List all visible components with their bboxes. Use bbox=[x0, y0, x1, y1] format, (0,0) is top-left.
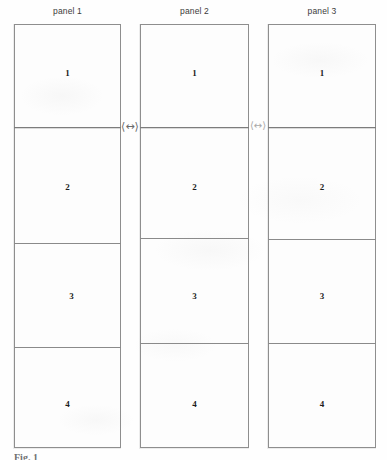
panel-1-cell-1-label: 1 bbox=[14, 68, 121, 78]
panel-box-1 bbox=[14, 24, 121, 448]
panel-box-2 bbox=[140, 24, 249, 448]
panel-1-cell-2-label: 2 bbox=[14, 182, 121, 192]
panel-1-divider-3 bbox=[14, 347, 121, 348]
panel-3-divider-3 bbox=[268, 343, 376, 344]
panel-2-divider-1 bbox=[140, 127, 249, 128]
panel-title-3: panel 3 bbox=[268, 6, 376, 16]
panel-3-cell-4-label: 4 bbox=[268, 399, 376, 409]
panel-2-divider-2 bbox=[140, 238, 249, 239]
figure-caption: Fig. 1 bbox=[14, 452, 38, 460]
panel-title-1: panel 1 bbox=[14, 6, 121, 16]
double-headed-arrow-icon-2: ⟨↔⟩ bbox=[247, 121, 269, 131]
panel-3-divider-1 bbox=[268, 127, 376, 128]
panel-1-cell-3-label: 3 bbox=[18, 291, 125, 301]
panel-3-cell-2-label: 2 bbox=[268, 182, 376, 192]
panel-2-cell-1-label: 1 bbox=[140, 68, 249, 78]
panel-1-cell-4-label: 4 bbox=[14, 399, 121, 409]
panel-3-cell-3-label: 3 bbox=[268, 291, 376, 301]
panel-title-2: panel 2 bbox=[140, 6, 249, 16]
panel-2-cell-2-label: 2 bbox=[140, 182, 249, 192]
panel-2-cell-4-label: 4 bbox=[140, 399, 249, 409]
panel-3-divider-2 bbox=[268, 239, 376, 240]
panel-2-cell-3-label: 3 bbox=[140, 291, 249, 301]
double-headed-arrow-icon-1: ⟨↔⟩ bbox=[118, 121, 142, 132]
panel-box-3 bbox=[268, 24, 376, 448]
figure-canvas: panel 1 panel 2 panel 3 1 2 3 4 ⟨↔⟩ 1 2 … bbox=[0, 0, 387, 460]
panel-1-divider-2 bbox=[14, 243, 121, 244]
panel-1-divider-1 bbox=[14, 127, 121, 128]
panel-2-divider-3 bbox=[140, 343, 249, 344]
panel-3-cell-1-label: 1 bbox=[268, 68, 376, 78]
